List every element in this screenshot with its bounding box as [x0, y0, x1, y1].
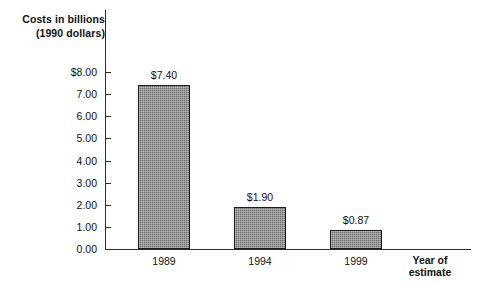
y-axis-tick	[105, 94, 111, 95]
bar	[138, 85, 190, 249]
y-axis-line	[105, 10, 106, 250]
y-axis-tick-label: 2.00	[7, 200, 97, 210]
y-axis-tick-label: 0.00	[7, 244, 97, 254]
y-axis-title: Costs in billions (1990 dollars)	[0, 12, 105, 40]
bar-chart: Costs in billions (1990 dollars) $8.007.…	[0, 0, 483, 283]
y-axis-tick	[105, 183, 111, 184]
y-axis-tick	[105, 249, 111, 250]
y-axis-tick	[105, 161, 111, 162]
y-axis-tick-label: 1.00	[7, 222, 97, 232]
y-axis-tick-label: $8.00	[7, 67, 97, 77]
y-axis-tick	[105, 72, 111, 73]
y-axis-tick	[105, 138, 111, 139]
x-axis-category-label: 1994	[220, 255, 300, 267]
y-axis-tick	[105, 116, 111, 117]
y-axis-title-line-2: (1990 dollars)	[0, 26, 105, 40]
y-axis-tick-label: 4.00	[7, 156, 97, 166]
y-axis-tick-label: 6.00	[7, 111, 97, 121]
y-axis-tick-label: 5.00	[7, 133, 97, 143]
x-axis-title: Year of estimate	[388, 254, 472, 278]
y-axis-tick-label: 3.00	[7, 178, 97, 188]
y-axis-tick	[105, 205, 111, 206]
y-axis-title-line-1: Costs in billions	[0, 12, 105, 26]
bar	[234, 207, 286, 249]
y-axis-tick	[105, 227, 111, 228]
bar	[330, 230, 382, 249]
x-axis-title-line-2: estimate	[388, 266, 472, 278]
x-axis-category-label: 1989	[124, 255, 204, 267]
x-axis-category-label: 1999	[316, 255, 396, 267]
y-axis-tick-label: 7.00	[7, 89, 97, 99]
x-axis-title-line-1: Year of	[388, 254, 472, 266]
bar-value-label: $0.87	[316, 214, 396, 226]
x-axis-line	[105, 249, 471, 250]
bar-value-label: $1.90	[220, 191, 300, 203]
bar-value-label: $7.40	[124, 69, 204, 81]
